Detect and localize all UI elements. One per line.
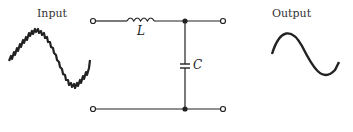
input-waveform <box>9 29 90 88</box>
input-terminal-top <box>91 19 96 24</box>
inductor <box>127 18 154 21</box>
output-terminal-bottom <box>221 107 226 112</box>
circuit-diagram <box>0 0 353 132</box>
input-terminal-bottom <box>91 107 96 112</box>
output-terminal-top <box>221 19 226 24</box>
output-waveform <box>272 33 339 75</box>
